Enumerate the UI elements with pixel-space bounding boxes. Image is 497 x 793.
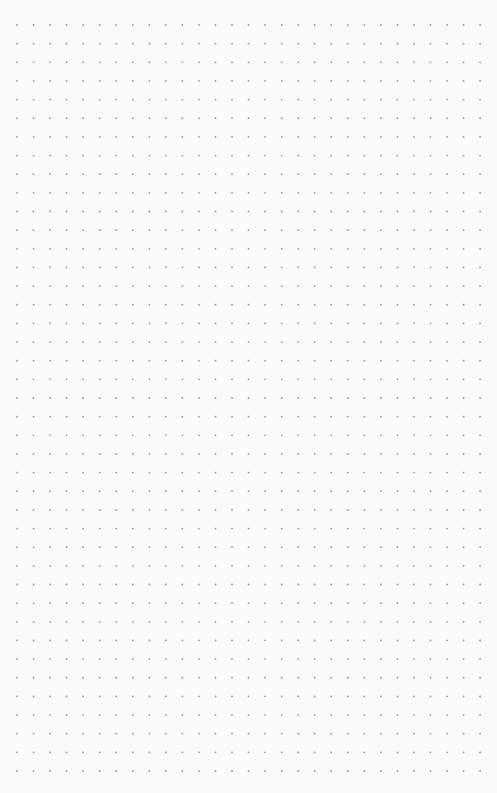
grid-dot [148, 565, 150, 567]
grid-dot [132, 696, 134, 698]
grid-dot [314, 80, 316, 82]
grid-dot [165, 61, 167, 63]
grid-dot [446, 117, 448, 119]
grid-dot [66, 696, 68, 698]
grid-dot [148, 770, 150, 772]
grid-dot [463, 229, 465, 231]
grid-dot [165, 397, 167, 399]
grid-dot [363, 490, 365, 492]
grid-dot [231, 640, 233, 642]
grid-dot [198, 528, 200, 530]
grid-dot [314, 267, 316, 269]
grid-dot [66, 416, 68, 418]
grid-dot [314, 751, 316, 753]
grid-dot [347, 621, 349, 623]
grid-dot [16, 155, 18, 157]
grid-dot [281, 472, 283, 474]
grid-dot [314, 136, 316, 138]
grid-dot [264, 416, 266, 418]
grid-dot [347, 602, 349, 604]
grid-dot [231, 528, 233, 530]
grid-dot [16, 80, 18, 82]
grid-dot [297, 117, 299, 119]
grid-dot [132, 211, 134, 213]
grid-dot [479, 117, 481, 119]
grid-dot [446, 509, 448, 511]
grid-dot [264, 117, 266, 119]
grid-dot [380, 434, 382, 436]
grid-dot [49, 43, 51, 45]
grid-dot [397, 546, 399, 548]
grid-dot [115, 509, 117, 511]
grid-dot [297, 584, 299, 586]
grid-dot [16, 173, 18, 175]
grid-dot [430, 416, 432, 418]
grid-dot [148, 509, 150, 511]
grid-dot [16, 658, 18, 660]
grid-dot [330, 304, 332, 306]
grid-dot [281, 378, 283, 380]
grid-dot [231, 173, 233, 175]
grid-dot [330, 714, 332, 716]
grid-dot [413, 229, 415, 231]
grid-dot [397, 192, 399, 194]
grid-dot [281, 173, 283, 175]
grid-dot [297, 99, 299, 101]
grid-dot [430, 192, 432, 194]
grid-dot [330, 677, 332, 679]
grid-dot [82, 490, 84, 492]
grid-dot [264, 602, 266, 604]
grid-dot [99, 323, 101, 325]
grid-dot [231, 378, 233, 380]
grid-dot [430, 248, 432, 250]
grid-dot [281, 509, 283, 511]
grid-dot [347, 490, 349, 492]
grid-dot [132, 285, 134, 287]
grid-dot [347, 341, 349, 343]
grid-dot [363, 621, 365, 623]
grid-dot [33, 155, 35, 157]
grid-dot [347, 61, 349, 63]
grid-dot [148, 658, 150, 660]
grid-dot [430, 751, 432, 753]
grid-dot [463, 584, 465, 586]
grid-dot [446, 565, 448, 567]
grid-dot [363, 211, 365, 213]
grid-dot [397, 434, 399, 436]
grid-dot [182, 285, 184, 287]
grid-dot [463, 677, 465, 679]
grid-dot [363, 658, 365, 660]
grid-dot [182, 378, 184, 380]
grid-dot [16, 416, 18, 418]
grid-dot [281, 211, 283, 213]
grid-dot [198, 117, 200, 119]
grid-dot [82, 173, 84, 175]
grid-dot [99, 99, 101, 101]
grid-dot [49, 173, 51, 175]
grid-dot [363, 229, 365, 231]
grid-dot [215, 136, 217, 138]
grid-dot [198, 211, 200, 213]
grid-dot [413, 211, 415, 213]
grid-dot [99, 751, 101, 753]
grid-dot [347, 248, 349, 250]
grid-dot [165, 714, 167, 716]
grid-dot [33, 397, 35, 399]
grid-dot [297, 434, 299, 436]
grid-dot [430, 658, 432, 660]
grid-dot [314, 602, 316, 604]
grid-dot [248, 173, 250, 175]
grid-dot [148, 267, 150, 269]
grid-dot [198, 360, 200, 362]
grid-dot [215, 117, 217, 119]
grid-dot [231, 565, 233, 567]
grid-dot [248, 714, 250, 716]
grid-dot [148, 490, 150, 492]
grid-dot [463, 173, 465, 175]
grid-dot [82, 602, 84, 604]
grid-dot [347, 770, 349, 772]
grid-dot [231, 117, 233, 119]
grid-dot [330, 99, 332, 101]
grid-dot [446, 267, 448, 269]
grid-dot [463, 304, 465, 306]
